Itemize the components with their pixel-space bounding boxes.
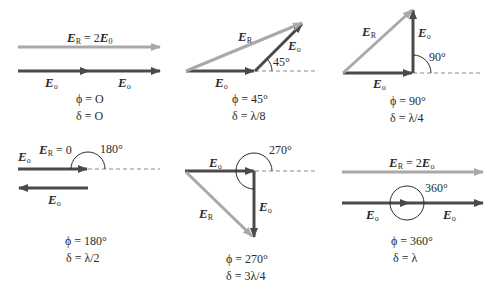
component-label-1: Eo	[215, 75, 228, 91]
component-label-2: Eo	[288, 38, 301, 54]
component-subscript: o	[57, 199, 61, 208]
phi-value: ϕ = 270°	[226, 252, 268, 267]
angle-label: 90°	[429, 50, 446, 65]
resultant-symbol: E	[238, 29, 247, 44]
resultant-vector	[343, 10, 412, 73]
resultant-subscript: R	[208, 213, 213, 222]
angle-label: 270°	[269, 143, 292, 158]
component-subscript: o	[27, 156, 31, 165]
component-subscript: o	[375, 214, 379, 223]
resultant-symbol: E	[389, 155, 398, 170]
resultant-subscript: R	[371, 31, 376, 40]
component-subscript: o	[218, 162, 222, 171]
resultant-annotation-subscript: 0	[108, 37, 112, 46]
delta-value: δ = λ/4	[390, 111, 424, 126]
resultant-symbol: E	[362, 24, 371, 39]
angle-label: 360°	[425, 181, 448, 196]
delta-value: δ = λ/2	[66, 251, 100, 266]
resultant-label-phi-90: ER	[362, 24, 376, 40]
component-symbol: E	[288, 38, 297, 53]
resultant-vector	[186, 172, 252, 236]
phi-value: ϕ = 180°	[65, 234, 107, 249]
phi-value: ϕ = 90°	[390, 94, 426, 109]
component-symbol: E	[373, 76, 382, 91]
component-label-2: Eo	[48, 192, 61, 208]
resultant-subscript: R	[48, 149, 53, 158]
component-symbol: E	[215, 75, 224, 90]
resultant-label-phi-360: ER = 2Eo	[389, 155, 434, 171]
resultant-subscript: R	[76, 37, 81, 46]
resultant-symbol: E	[67, 30, 76, 45]
phi-value: ϕ = O	[76, 92, 104, 107]
panel-phi-90	[343, 10, 482, 73]
delta-value: δ = λ/8	[232, 109, 266, 124]
component-subscript: o	[452, 214, 456, 223]
resultant-symbol: E	[199, 206, 208, 221]
component-subscript: o	[127, 82, 131, 91]
delta-value: δ = 3λ/4	[226, 269, 266, 284]
component-symbol: E	[18, 149, 27, 164]
angle-label: 45°	[273, 55, 290, 70]
phi-value: ϕ = 45°	[232, 92, 268, 107]
component-label-1: Eo	[45, 75, 58, 91]
resultant-label-phi-180: ER = 0	[39, 142, 72, 158]
component-subscript: o	[382, 83, 386, 92]
component-label-1: Eo	[18, 149, 31, 165]
component-label-2: Eo	[118, 75, 131, 91]
component-symbol: E	[366, 207, 375, 222]
resultant-annotation-subscript: o	[430, 162, 434, 171]
panel-phi-270	[185, 153, 316, 237]
component-symbol: E	[45, 75, 54, 90]
delta-value: δ = O	[76, 109, 103, 124]
resultant-label-phi-45: ER	[238, 29, 252, 45]
phi-value: ϕ = 360°	[391, 234, 433, 249]
component-label-2: Eo	[418, 25, 431, 41]
resultant-symbol: E	[39, 142, 48, 157]
resultant-annotation: = 2	[406, 156, 422, 170]
component-subscript: o	[224, 82, 228, 91]
component-subscript: o	[427, 32, 431, 41]
component-label-1: Eo	[209, 155, 222, 171]
component-symbol: E	[259, 199, 268, 214]
component-symbol: E	[118, 75, 127, 90]
component-label-1: Eo	[366, 207, 379, 223]
component-label-2: Eo	[259, 199, 272, 215]
resultant-annotation: = 0	[56, 143, 72, 157]
resultant-subscript: R	[398, 162, 403, 171]
angle-label: 180°	[100, 142, 123, 157]
component-symbol: E	[48, 192, 57, 207]
panel-phi-360	[342, 172, 483, 220]
resultant-annotation: = 2	[84, 31, 100, 45]
component-subscript: o	[268, 206, 272, 215]
resultant-label-phi-0: ER = 2E0	[67, 30, 112, 46]
angle-arc	[267, 59, 272, 71]
component-symbol: E	[443, 207, 452, 222]
component-subscript: o	[54, 82, 58, 91]
component-label-1: Eo	[373, 76, 386, 92]
component-symbol: E	[209, 155, 218, 170]
component-subscript: o	[297, 45, 301, 54]
component-symbol: E	[418, 25, 427, 40]
panel-phi-0	[18, 47, 160, 71]
component-label-2: Eo	[443, 207, 456, 223]
delta-value: δ = λ	[393, 251, 417, 266]
resultant-subscript: R	[247, 36, 252, 45]
resultant-label-phi-270: ER	[199, 206, 213, 222]
